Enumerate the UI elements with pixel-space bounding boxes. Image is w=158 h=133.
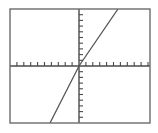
graph-figure [0,0,158,133]
coordinate-plane-plot [0,0,158,133]
